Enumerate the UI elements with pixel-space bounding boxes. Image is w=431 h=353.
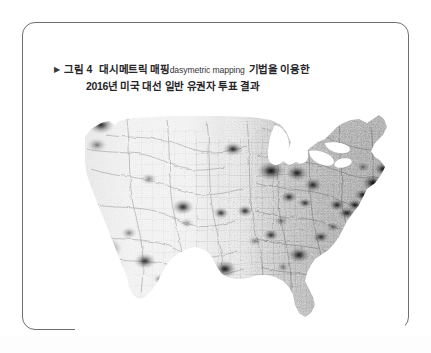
caption-line-2: 2016년 미국 대선 일반 유권자 투표 결과 (54, 76, 394, 93)
figure-frame: ▶그림 4대시메트릭 매핑dasymetric mapping기법을 이용한 2… (22, 22, 409, 330)
us-dot-density-map (75, 109, 405, 333)
caption-line-1: ▶그림 4대시메트릭 매핑dasymetric mapping기법을 이용한 (54, 59, 394, 76)
page-bottom-margin (0, 336, 431, 353)
page-canvas: ▶그림 4대시메트릭 매핑dasymetric mapping기법을 이용한 2… (0, 0, 431, 353)
caption-main-korean: 대시메트릭 매핑 (99, 63, 170, 75)
caption-tail-korean: 기법을 이용한 (249, 63, 310, 75)
caption-latin-term: dasymetric mapping (170, 65, 245, 75)
figure-caption: ▶그림 4대시메트릭 매핑dasymetric mapping기법을 이용한 2… (54, 59, 394, 93)
caption-bullet-icon: ▶ (54, 65, 60, 74)
map-container (75, 109, 405, 333)
caption-subtitle: 2016년 미국 대선 일반 유권자 투표 결과 (86, 80, 260, 92)
figure-number: 그림 4 (64, 63, 92, 75)
